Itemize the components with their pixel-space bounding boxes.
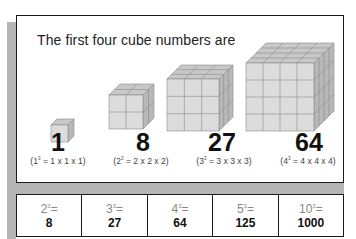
cube-values-table: 23= 8 33= 27 43= 64 53= 125 103= 1000 — [16, 194, 344, 237]
cube-formula-1: (13 = 1 x 1 x 1) — [18, 156, 98, 166]
table-cell: 53= 125 — [213, 195, 278, 236]
left-shadow — [7, 22, 16, 239]
cube-formula-8: (23 = 2 x 2 x 2) — [101, 156, 181, 166]
middle-shadow-strip — [16, 183, 344, 194]
cube-formula-64: (43 = 4 x 4 x 4) — [268, 156, 348, 166]
cube-icon — [167, 65, 237, 135]
cube-formula-27: (33 = 3 x 3 x 3) — [184, 156, 264, 166]
cube-value-64: 64 — [279, 129, 339, 155]
table-cell: 43= 64 — [148, 195, 213, 236]
cube-value-27: 27 — [192, 129, 252, 155]
cube-2x2x2-illustration — [109, 84, 159, 134]
cube-value-8: 8 — [113, 129, 173, 155]
table-cell: 23= 8 — [17, 195, 82, 236]
panel-title: The first four cube numbers are — [37, 32, 235, 48]
cube-icon — [109, 84, 159, 134]
table-cell: 33= 27 — [82, 195, 147, 236]
cube-numbers-panel: The first four cube numbers are 1 8 27 6… — [16, 15, 344, 183]
table-cell: 103= 1000 — [279, 195, 343, 236]
cube-3x3x3-illustration — [167, 65, 237, 135]
cube-value-1: 1 — [28, 129, 88, 155]
cube-icon — [246, 43, 338, 135]
cube-4x4x4-illustration — [246, 43, 338, 135]
